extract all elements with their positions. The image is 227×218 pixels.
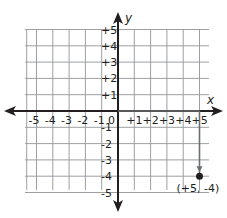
x-tick-label: -2 [77, 114, 88, 127]
y-axis-label: y [124, 11, 133, 25]
data-point [196, 173, 203, 180]
y-tick-label: +4 [101, 40, 117, 53]
path-arrow-icon [197, 166, 203, 172]
x-tick-label: +4 [175, 114, 191, 127]
y-tick-label: -4 [101, 170, 112, 183]
y-tick-label: +3 [101, 56, 117, 69]
y-tick-label: -2 [101, 138, 112, 151]
x-tick-label: +2 [143, 114, 159, 127]
y-tick-label: +2 [101, 72, 117, 85]
x-tick-label: -4 [45, 114, 56, 127]
x-tick-label: +3 [159, 114, 175, 127]
x-tick-label: +1 [126, 114, 142, 127]
x-axis-label: x [206, 93, 215, 107]
x-tick-label: -5 [29, 114, 40, 127]
y-tick-label: -3 [101, 154, 112, 167]
y-tick-label: +1 [101, 89, 117, 102]
x-tick-label: -3 [61, 114, 72, 127]
y-tick-label: +5 [101, 24, 117, 37]
coordinate-plane: yx-5-4-3-2-10+1+2+3+4+5+5+4+3+2+1-1-2-3-… [0, 0, 227, 218]
y-tick-label: -1 [101, 121, 112, 134]
y-tick-label: -5 [101, 187, 112, 200]
data-point-label: (+5, -4) [177, 182, 220, 195]
